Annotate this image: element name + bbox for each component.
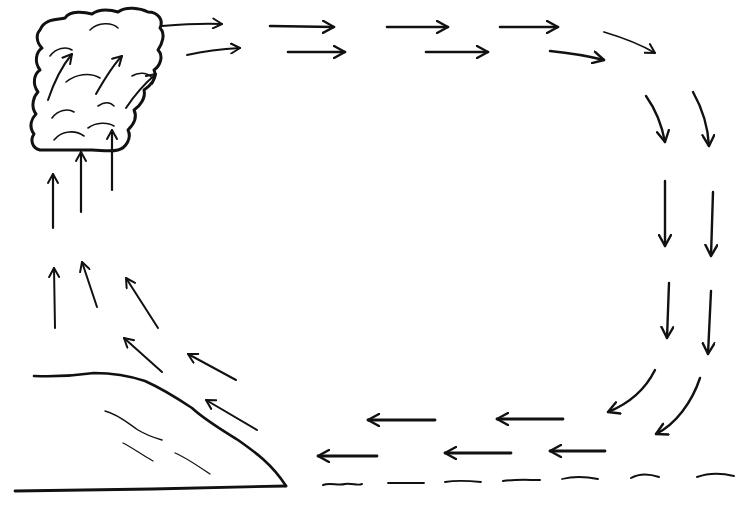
sinking-air-arrows: [608, 92, 713, 434]
outflow-aloft-arrows: [162, 24, 655, 60]
land-slope: [15, 373, 286, 491]
onshore-wind-arrows: [318, 419, 605, 456]
cloud-icon: [31, 8, 163, 151]
sea-breeze-diagram: [0, 0, 749, 523]
sea-surface: [323, 474, 734, 485]
